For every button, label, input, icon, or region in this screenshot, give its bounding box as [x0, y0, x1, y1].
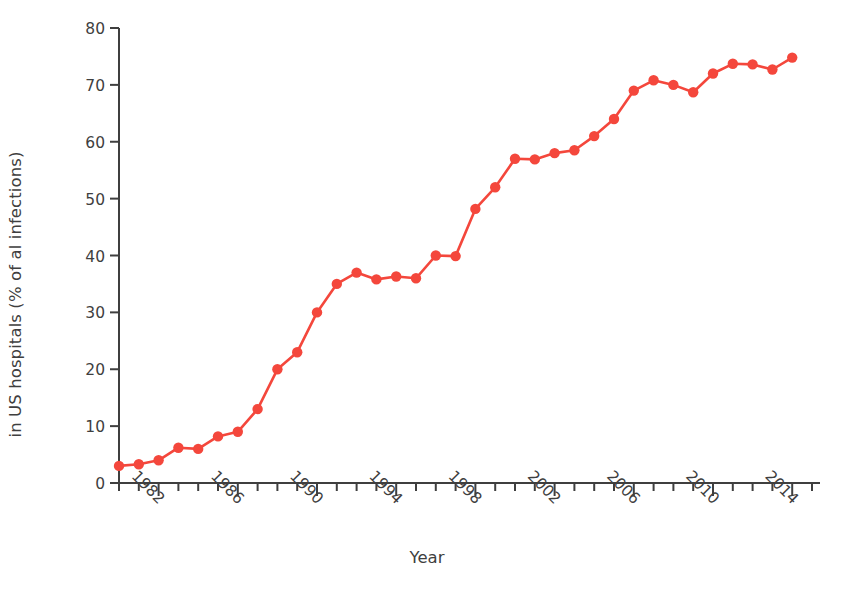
data-point-1983	[173, 443, 183, 453]
y-tick-label: 10	[85, 418, 105, 436]
x-tick-label: 2006	[603, 467, 644, 508]
data-point-1991	[332, 279, 342, 289]
data-point-2000	[510, 154, 520, 164]
data-point-1987	[252, 404, 262, 414]
data-point-1994	[391, 271, 401, 281]
y-tick-label: 60	[85, 134, 105, 152]
y-tick-label: 50	[85, 191, 105, 209]
y-tick-label: 0	[95, 475, 105, 493]
data-point-2005	[609, 114, 619, 124]
data-point-1982	[153, 455, 163, 465]
x-axis-title: Year	[0, 548, 854, 567]
line-chart-plot: 0102030405060708019821986199019941998200…	[0, 0, 854, 589]
x-tick-label: 1986	[207, 467, 248, 508]
axes	[110, 28, 820, 496]
x-tick-label: 1998	[445, 467, 486, 508]
data-point-1996	[431, 250, 441, 260]
data-point-2001	[530, 154, 540, 164]
data-point-2007	[648, 75, 658, 85]
data-point-1980	[114, 461, 124, 471]
series-line	[119, 58, 792, 466]
data-series	[114, 52, 798, 471]
data-point-1981	[134, 459, 144, 469]
data-point-2012	[747, 59, 757, 69]
x-tick-label: 1994	[365, 467, 406, 508]
y-tick-label: 20	[85, 361, 105, 379]
y-tick-label: 80	[85, 20, 105, 38]
data-point-2010	[708, 68, 718, 78]
x-tick-label: 2002	[524, 467, 565, 508]
data-point-1986	[233, 427, 243, 437]
y-tick-label: 70	[85, 77, 105, 95]
data-point-1995	[411, 273, 421, 283]
data-point-2009	[688, 87, 698, 97]
data-point-2006	[629, 85, 639, 95]
data-point-2008	[668, 80, 678, 90]
x-tick-label: 2014	[761, 467, 802, 508]
data-point-2013	[767, 64, 777, 74]
data-point-1992	[351, 267, 361, 277]
data-point-2004	[589, 131, 599, 141]
data-point-2014	[787, 52, 797, 62]
y-tick-label: 40	[85, 248, 105, 266]
data-point-1988	[272, 364, 282, 374]
data-point-1990	[312, 307, 322, 317]
x-tick-label: 1982	[128, 467, 169, 508]
data-point-1989	[292, 347, 302, 357]
chart-figure: 0102030405060708019821986199019941998200…	[0, 0, 854, 589]
data-point-1984	[193, 444, 203, 454]
data-point-1997	[450, 251, 460, 261]
data-point-2003	[569, 145, 579, 155]
x-tick-label: 2010	[682, 467, 723, 508]
data-point-2011	[728, 59, 738, 69]
x-tick-label: 1990	[286, 467, 327, 508]
data-point-2002	[549, 148, 559, 158]
y-tick-label: 30	[85, 304, 105, 322]
data-point-1999	[490, 182, 500, 192]
data-point-1993	[371, 274, 381, 284]
data-point-1985	[213, 431, 223, 441]
data-point-1998	[470, 204, 480, 214]
